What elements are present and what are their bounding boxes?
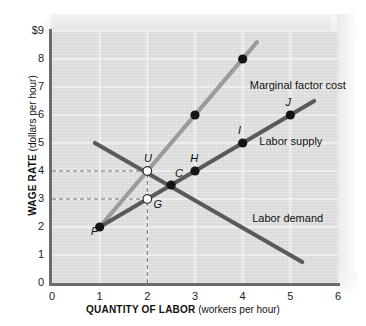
y-tick-label-4: 4 — [18, 164, 44, 176]
data-point-G — [143, 195, 152, 204]
y-tick-label-7: 7 — [18, 80, 44, 92]
point-label-F: F — [91, 225, 98, 237]
x-tick-label-2: 2 — [137, 290, 157, 302]
x-axis-title-paren: (workers per hour) — [198, 304, 280, 315]
point-label-U: U — [144, 152, 152, 164]
x-tick-label-5: 5 — [280, 290, 300, 302]
data-point-unlabeled — [238, 54, 247, 63]
y-tick-label-9: $9 — [18, 24, 44, 36]
curve-line — [95, 143, 302, 262]
plot-overlay — [0, 0, 366, 326]
curve-label-marginal-factor-cost: Marginal factor cost — [250, 79, 346, 91]
y-tick-label-3: 3 — [18, 192, 44, 204]
x-axis-title: QUANTITY OF LABOR (workers per hour) — [0, 304, 366, 315]
data-point-unlabeled — [190, 110, 199, 119]
curve-label-labor-demand: Labor demand — [252, 212, 323, 224]
y-tick-label-6: 6 — [18, 108, 44, 120]
point-label-I: I — [238, 124, 241, 136]
point-label-C: C — [175, 167, 183, 179]
wage-rate-chart-figure: WAGE RATE (dollars per hour) QUANTITY OF… — [0, 0, 366, 326]
x-tick-label-1: 1 — [90, 290, 110, 302]
curve-label-labor-supply: Labor supply — [259, 135, 322, 147]
y-tick-label-0: 0 — [18, 276, 44, 288]
y-tick-label-2: 2 — [18, 220, 44, 232]
x-tick-label-3: 3 — [185, 290, 205, 302]
x-axis-title-bold: QUANTITY OF LABOR — [86, 304, 195, 315]
data-point-C — [167, 180, 176, 189]
data-point-I — [238, 138, 247, 147]
series-labor-demand — [95, 143, 302, 262]
x-tick-label-0: 0 — [42, 290, 62, 302]
y-tick-label-5: 5 — [18, 136, 44, 148]
x-tick-label-4: 4 — [233, 290, 253, 302]
data-point-H — [190, 166, 199, 175]
y-tick-label-1: 1 — [18, 248, 44, 260]
x-tick-label-6: 6 — [328, 290, 348, 302]
y-tick-label-8: 8 — [18, 52, 44, 64]
point-label-J: J — [286, 96, 292, 108]
point-label-G: G — [154, 198, 163, 210]
data-point-U — [143, 167, 152, 176]
data-point-J — [286, 110, 295, 119]
point-label-H: H — [190, 152, 198, 164]
